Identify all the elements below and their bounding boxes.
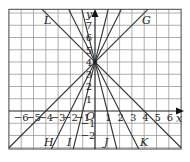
line-label-l: L [43,14,51,27]
line-k [69,9,139,149]
x-axis-label: x [176,112,183,125]
y-tick-label: 6 [86,32,92,43]
y-tick-label: 4 [86,57,92,68]
intersection-point [93,60,97,64]
x-tick-label: 5 [155,112,161,123]
y-tick-label: 2 [86,81,92,92]
x-tick-label: 2 [118,112,124,123]
y-tick-label: 1 [86,94,92,105]
x-tick-label: 4 [142,112,148,123]
coordinate-graph: −6 −5 −4 −3 −2 −1 1 2 3 4 5 6 x O 1 2 3 … [0,0,190,162]
y-tick-label: 7 [86,20,92,31]
y-axis-label: y [85,8,93,21]
line-label-i: I [66,136,72,149]
y-tick-label: −1 [81,118,96,129]
line-label-k: K [139,136,149,149]
x-tick-label: 3 [130,112,136,123]
line-label-g: G [142,14,151,27]
line-label-h: H [43,136,54,149]
y-tick-label: 5 [86,45,92,56]
x-tick-label: 1 [105,112,111,123]
x-tick-label: 6 [167,112,173,123]
y-tick-label: −2 [81,130,96,141]
y-tick-label: 3 [86,69,92,80]
line-label-j: J [102,136,109,149]
